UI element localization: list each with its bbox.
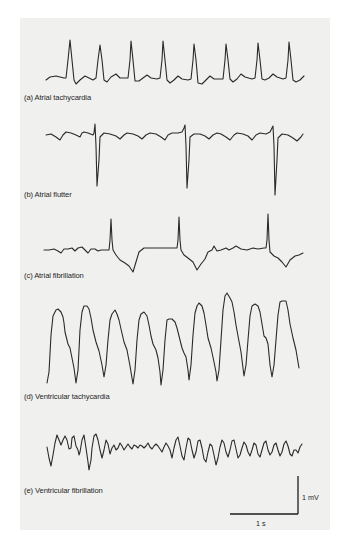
label-atrial-fibrillation: (c) Atrial fibrillation	[24, 271, 84, 280]
trace-ventricular-tachycardia	[47, 293, 299, 385]
trace-atrial-fibrillation	[44, 214, 303, 272]
trace-atrial-flutter	[46, 124, 303, 195]
scale-label-voltage: 1 mV	[302, 493, 319, 502]
label-atrial-flutter: (b) Atrial flutter	[24, 190, 72, 199]
label-ventricular-fibrillation: (e) Ventricular fibrillation	[24, 486, 103, 495]
label-atrial-tachycardia: (a) Atrial tachycardia	[24, 93, 91, 102]
scale-label-time: 1 s	[256, 519, 266, 528]
label-ventricular-tachycardia: (d) Ventricular tachycardia	[24, 392, 110, 401]
trace-ventricular-fibrillation	[47, 434, 302, 470]
trace-atrial-tachycardia	[46, 40, 304, 84]
